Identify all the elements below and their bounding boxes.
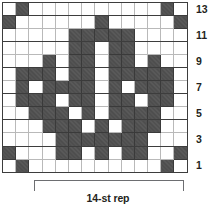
chart-row bbox=[3, 16, 188, 29]
chart-cell-empty bbox=[134, 94, 147, 107]
chart-cell-filled bbox=[108, 133, 121, 146]
chart-cell-filled bbox=[68, 146, 81, 159]
chart-cell-filled bbox=[68, 120, 81, 133]
chart-cell-filled bbox=[95, 146, 108, 159]
chart-cell-empty bbox=[95, 107, 108, 120]
chart-cell-filled bbox=[42, 55, 55, 68]
chart-cell-filled bbox=[68, 55, 81, 68]
chart-cell-filled bbox=[16, 3, 29, 16]
chart-cell-filled bbox=[174, 16, 187, 29]
chart-cell-filled bbox=[108, 107, 121, 120]
chart-cell-filled bbox=[29, 68, 42, 81]
chart-cell-empty bbox=[16, 29, 29, 42]
chart-cell-filled bbox=[3, 146, 16, 159]
chart-cell-empty bbox=[3, 120, 16, 133]
chart-cell-filled bbox=[161, 159, 174, 172]
chart-cell-filled bbox=[82, 133, 95, 146]
chart-cell-filled bbox=[82, 107, 95, 120]
chart-cell-empty bbox=[82, 159, 95, 172]
row-number-13: 13 bbox=[196, 4, 216, 14]
row-number-1: 1 bbox=[196, 160, 216, 170]
chart-cell-empty bbox=[95, 55, 108, 68]
chart-cell-empty bbox=[174, 120, 187, 133]
chart-cell-filled bbox=[55, 107, 68, 120]
chart-cell-empty bbox=[95, 94, 108, 107]
chart-cell-empty bbox=[161, 107, 174, 120]
chart-cell-empty bbox=[174, 68, 187, 81]
chart-cell-empty bbox=[82, 3, 95, 16]
chart-cell-filled bbox=[42, 94, 55, 107]
chart-cell-empty bbox=[55, 16, 68, 29]
chart-cell-empty bbox=[42, 133, 55, 146]
chart-cell-empty bbox=[68, 3, 81, 16]
chart-cell-empty bbox=[16, 16, 29, 29]
chart-row bbox=[3, 81, 188, 94]
chart-cell-empty bbox=[16, 55, 29, 68]
row-number-11: 11 bbox=[196, 30, 216, 40]
chart-cell-empty bbox=[3, 42, 16, 55]
chart-cell-empty bbox=[29, 146, 42, 159]
chart-cell-empty bbox=[82, 16, 95, 29]
chart-row bbox=[3, 120, 188, 133]
chart-cell-empty bbox=[55, 42, 68, 55]
chart-cell-empty bbox=[42, 3, 55, 16]
chart-cell-empty bbox=[148, 16, 161, 29]
chart-cell-empty bbox=[29, 55, 42, 68]
chart-grid-body bbox=[3, 3, 188, 173]
chart-cell-empty bbox=[108, 159, 121, 172]
row-number-3: 3 bbox=[196, 134, 216, 144]
chart-cell-empty bbox=[82, 146, 95, 159]
chart-cell-empty bbox=[29, 3, 42, 16]
chart-cell-filled bbox=[121, 133, 134, 146]
chart-cell-empty bbox=[16, 120, 29, 133]
chart-cell-empty bbox=[174, 133, 187, 146]
chart-cell-filled bbox=[68, 42, 81, 55]
chart-cell-empty bbox=[108, 3, 121, 16]
chart-cell-empty bbox=[3, 159, 16, 172]
chart-cell-filled bbox=[29, 94, 42, 107]
chart-cell-empty bbox=[121, 3, 134, 16]
chart-grid bbox=[2, 2, 188, 173]
chart-cell-filled bbox=[95, 29, 108, 42]
chart-cell-filled bbox=[82, 68, 95, 81]
chart-cell-filled bbox=[148, 120, 161, 133]
chart-cell-empty bbox=[174, 3, 187, 16]
chart-cell-empty bbox=[68, 159, 81, 172]
chart-cell-filled bbox=[82, 55, 95, 68]
chart-cell-empty bbox=[3, 81, 16, 94]
chart-cell-filled bbox=[42, 107, 55, 120]
chart-cell-filled bbox=[42, 120, 55, 133]
chart-cell-filled bbox=[29, 107, 42, 120]
chart-cell-filled bbox=[95, 133, 108, 146]
chart-cell-filled bbox=[134, 146, 147, 159]
chart-row bbox=[3, 3, 188, 16]
chart-cell-empty bbox=[29, 120, 42, 133]
chart-cell-filled bbox=[134, 68, 147, 81]
chart-row bbox=[3, 107, 188, 120]
chart-cell-empty bbox=[42, 29, 55, 42]
chart-cell-empty bbox=[3, 29, 16, 42]
chart-cell-filled bbox=[82, 42, 95, 55]
chart-cell-empty bbox=[3, 68, 16, 81]
chart-cell-filled bbox=[121, 68, 134, 81]
chart-cell-empty bbox=[42, 16, 55, 29]
chart-cell-empty bbox=[29, 159, 42, 172]
chart-cell-filled bbox=[42, 81, 55, 94]
chart-cell-filled bbox=[148, 81, 161, 94]
knitting-chart-figure: 131197531 14-st rep bbox=[0, 0, 216, 204]
chart-cell-filled bbox=[68, 68, 81, 81]
chart-cell-empty bbox=[95, 81, 108, 94]
chart-cell-empty bbox=[108, 16, 121, 29]
chart-row bbox=[3, 55, 188, 68]
chart-row bbox=[3, 146, 188, 159]
chart-row bbox=[3, 29, 188, 42]
chart-cell-empty bbox=[16, 42, 29, 55]
chart-cell-empty bbox=[174, 42, 187, 55]
chart-cell-empty bbox=[29, 29, 42, 42]
chart-cell-empty bbox=[108, 146, 121, 159]
chart-cell-empty bbox=[95, 159, 108, 172]
chart-cell-filled bbox=[82, 29, 95, 42]
chart-cell-filled bbox=[148, 55, 161, 68]
chart-cell-filled bbox=[3, 16, 16, 29]
chart-cell-empty bbox=[55, 94, 68, 107]
